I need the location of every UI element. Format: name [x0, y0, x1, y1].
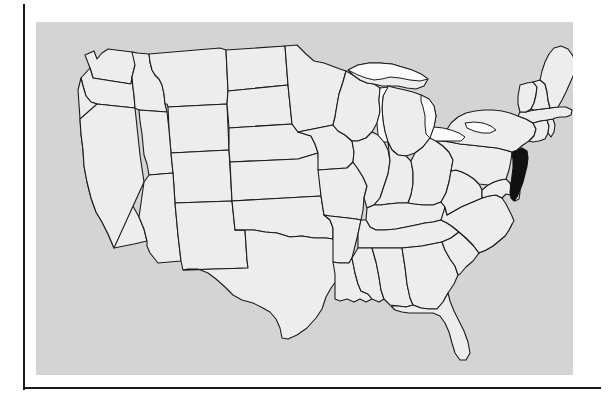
state-south-dakota[interactable] [227, 85, 292, 128]
page-rule-left [23, 4, 25, 390]
state-utah[interactable] [139, 110, 173, 175]
map-plate [36, 22, 573, 375]
state-wyoming[interactable] [168, 104, 229, 153]
page-canvas [0, 0, 616, 397]
us-map[interactable] [36, 22, 573, 375]
state-new-jersey[interactable] [510, 148, 528, 201]
page-rule-bottom [23, 387, 601, 389]
state-rhode-island[interactable] [547, 119, 555, 137]
state-colorado[interactable] [171, 150, 232, 203]
state-north-dakota[interactable] [226, 46, 288, 91]
